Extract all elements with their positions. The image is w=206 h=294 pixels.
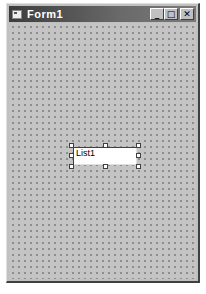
form-design-surface[interactable]: List1 <box>9 23 196 279</box>
resize-handle-nw[interactable] <box>69 143 74 148</box>
form-window[interactable]: Form1 _ □ ✕ List1 <box>6 3 200 283</box>
resize-handle-e[interactable] <box>136 153 141 158</box>
resize-handle-w[interactable] <box>69 153 74 158</box>
form-icon[interactable] <box>12 10 22 19</box>
resize-handle-sw[interactable] <box>69 164 74 169</box>
resize-handle-n[interactable] <box>103 143 108 148</box>
resize-handle-se[interactable] <box>136 164 141 169</box>
window-title: Form1 <box>27 8 63 20</box>
listbox-list1[interactable]: List1 <box>73 147 137 165</box>
minimize-button[interactable]: _ <box>150 8 164 20</box>
resize-handle-s[interactable] <box>103 164 108 169</box>
resize-handle-ne[interactable] <box>136 143 141 148</box>
window-controls: _ □ ✕ <box>150 8 194 20</box>
close-button[interactable]: ✕ <box>180 8 194 20</box>
maximize-button[interactable]: □ <box>164 8 178 20</box>
listbox-caption: List1 <box>74 148 136 159</box>
title-bar[interactable]: Form1 _ □ ✕ <box>9 6 196 22</box>
